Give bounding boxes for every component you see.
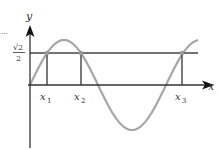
svg-text:2: 2 bbox=[81, 97, 85, 105]
svg-text:x: x bbox=[40, 91, 46, 102]
level-label-numerator: √2 bbox=[13, 43, 23, 52]
svg-text:x: x bbox=[175, 91, 181, 102]
point-label-x3: x 3 bbox=[175, 91, 186, 105]
y-axis-label: y bbox=[25, 10, 33, 23]
point-label-x2: x 2 bbox=[74, 91, 85, 105]
intersection-point-2 bbox=[79, 51, 84, 56]
ellipsis-text: ... bbox=[1, 28, 8, 36]
point-label-x1: x 1 bbox=[40, 91, 51, 105]
x-axis-label: x bbox=[208, 80, 215, 93]
level-label-denominator: 2 bbox=[16, 54, 21, 63]
intersection-point-1 bbox=[45, 51, 50, 56]
svg-text:1: 1 bbox=[47, 97, 51, 105]
svg-text:3: 3 bbox=[182, 97, 186, 105]
sine-diagram: ... x y √2 2 x 1 x 2 x 3 bbox=[0, 0, 219, 150]
intersection-point-3 bbox=[180, 51, 185, 56]
svg-text:x: x bbox=[74, 91, 80, 102]
